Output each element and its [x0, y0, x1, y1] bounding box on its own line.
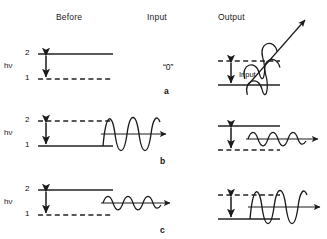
row-a-graphics — [0, 0, 327, 239]
row-label-c: c — [160, 225, 165, 235]
energy-level-transition-diagram: Before Input Output 2 1 hν “0” Input a — [0, 0, 327, 239]
row-b-hv-label: hν — [4, 128, 12, 137]
row-c-level-upper-label: 2 — [25, 184, 29, 193]
row-b-level-lower-label: 1 — [25, 140, 29, 149]
row-label-b: b — [160, 156, 165, 166]
row-b-level-upper-label: 2 — [25, 115, 29, 124]
row-a-output-spontaneous-photon — [239, 20, 305, 104]
row-c-hv-label: hν — [4, 197, 12, 206]
row-c-input-wave — [101, 196, 170, 210]
row-c-level-lower-label: 1 — [25, 209, 29, 218]
row-b-output-wave — [246, 132, 318, 146]
